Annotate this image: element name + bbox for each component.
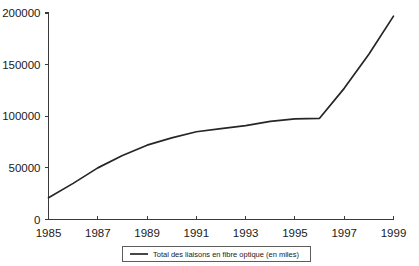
x-tick-label: 1985	[36, 227, 62, 239]
y-tick-label: 150000	[2, 59, 40, 71]
x-tick-label: 1989	[134, 227, 160, 239]
y-axis-ticks: 050000100000150000200000	[2, 7, 48, 226]
series-line-total-fibre	[49, 16, 394, 198]
y-tick-label: 100000	[2, 110, 40, 122]
x-tick-label: 1999	[381, 227, 407, 239]
x-tick-label: 1995	[282, 227, 308, 239]
y-tick-label: 200000	[2, 7, 40, 19]
y-tick-label: 0	[34, 214, 40, 226]
chart-figure: 050000100000150000200000 198519871989199…	[0, 0, 419, 266]
legend-label-total-fibre: Total des liaisons en fibre optique (en …	[153, 250, 299, 259]
line-chart: 050000100000150000200000 198519871989199…	[0, 0, 419, 266]
x-tick-label: 1997	[331, 227, 357, 239]
x-tick-label: 1987	[85, 227, 111, 239]
y-tick-label: 50000	[9, 162, 41, 174]
x-tick-label: 1993	[233, 227, 259, 239]
x-tick-label: 1991	[184, 227, 210, 239]
chart-legend: Total des liaisons en fibre optique (en …	[123, 247, 311, 262]
